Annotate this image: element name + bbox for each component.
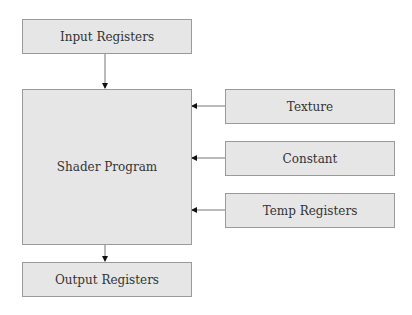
temp-registers-node: Temp Registers (225, 193, 395, 228)
shader-program-node: Shader Program (22, 89, 192, 245)
constant-node: Constant (225, 141, 395, 176)
shader-program-label: Shader Program (57, 160, 157, 174)
input-registers-label: Input Registers (60, 30, 154, 44)
output-registers-node: Output Registers (22, 262, 192, 297)
constant-label: Constant (283, 152, 338, 166)
texture-node: Texture (225, 89, 395, 124)
temp-registers-label: Temp Registers (263, 204, 358, 218)
texture-label: Texture (287, 100, 333, 114)
input-registers-node: Input Registers (22, 19, 192, 54)
output-registers-label: Output Registers (55, 273, 159, 287)
